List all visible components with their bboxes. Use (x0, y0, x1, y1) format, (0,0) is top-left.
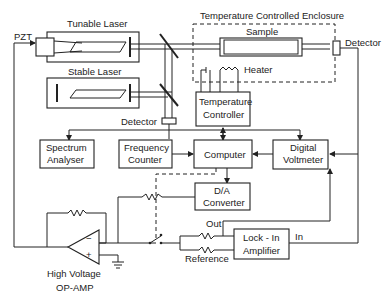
high-voltage-op-amp (47, 210, 156, 268)
da-label-2: Converter (203, 197, 245, 208)
minus-sign: − (86, 233, 92, 244)
plus-sign: + (86, 249, 92, 260)
temp-controller-label-2: Controller (203, 109, 244, 120)
lockin-label-1: Lock - In (243, 232, 279, 243)
spectrum-label-2: Analyser (47, 154, 84, 165)
dvm-label-1: Digital (290, 142, 316, 153)
pzt-label: PZT (14, 31, 32, 42)
optical-setup-diagram: Tunable Laser PZT Stable Laser Temperatu… (0, 0, 390, 298)
in-label: In (295, 231, 303, 242)
detector-mid-label: Detector (121, 116, 157, 127)
heater-label: Heater (244, 64, 273, 75)
sample-label: Sample (246, 26, 278, 37)
detector-right (333, 41, 340, 55)
stable-laser-label: Stable Laser (68, 66, 121, 77)
stable-laser (47, 78, 139, 108)
dvm-label-2: Voltmeter (283, 154, 323, 165)
lockin-label-2: Amplifier (243, 245, 280, 256)
tunable-laser (36, 32, 139, 62)
tunable-laser-label: Tunable Laser (67, 18, 127, 29)
freq-label-1: Frequency (124, 142, 169, 153)
temp-controller-label-1: Temperature (199, 96, 252, 107)
reference-label: Reference (185, 253, 229, 264)
da-label-1: D/A (214, 185, 231, 196)
freq-label-2: Counter (128, 154, 162, 165)
spectrum-label-1: Spectrum (46, 142, 87, 153)
pzt-block (36, 38, 54, 56)
opamp-label-2: OP-AMP (56, 282, 93, 293)
computer-label: Computer (204, 149, 246, 160)
detector-mid (162, 118, 176, 124)
opamp-label-1: High Voltage (47, 268, 101, 279)
enclosure-label: Temperature Controlled Enclosure (200, 10, 344, 21)
out-label: Out (206, 218, 222, 229)
sample-cell (220, 38, 302, 56)
detector-right-label: Detector (345, 37, 381, 48)
